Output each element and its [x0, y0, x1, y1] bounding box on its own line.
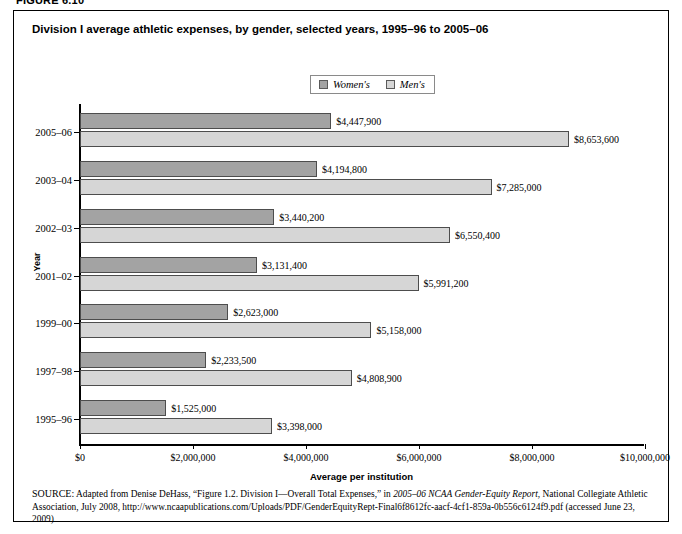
x-axis-tick — [306, 444, 307, 449]
x-axis-tick — [532, 444, 533, 449]
plot-area: Year Average per institution $0$2,000,00… — [14, 11, 670, 523]
bar-value-label: $4,447,900 — [336, 115, 381, 126]
x-axis-tick-label: $4,000,000 — [284, 452, 329, 463]
y-axis-tick — [74, 180, 79, 181]
x-axis-tick-label: $0 — [75, 452, 85, 463]
bar-womens-1995–96 — [80, 400, 166, 416]
figure-label: FIGURE 6.10 — [16, 0, 84, 6]
bar-womens-1997–98 — [80, 352, 206, 368]
bar-mens-2001–02 — [80, 275, 419, 291]
y-axis-tick-label: 1995–96 — [16, 414, 72, 425]
x-axis-line — [79, 444, 644, 446]
x-axis-tick — [419, 444, 420, 449]
bar-value-label: $5,991,200 — [424, 277, 469, 288]
bar-womens-1999–00 — [80, 304, 228, 320]
y-axis-tick — [74, 371, 79, 372]
y-axis-tick-label: 1999–00 — [16, 318, 72, 329]
y-axis-tick-label: 2002–03 — [16, 223, 72, 234]
y-axis-tick-label: 2003–04 — [16, 175, 72, 186]
bar-mens-1999–00 — [80, 322, 371, 338]
source-note: SOURCE: Adapted from Denise DeHass, “Fig… — [32, 488, 654, 526]
bar-mens-1995–96 — [80, 418, 272, 434]
x-axis-tick — [645, 444, 646, 449]
bar-value-label: $7,285,000 — [497, 181, 542, 192]
y-axis-tick-label: 2005–06 — [16, 127, 72, 138]
bar-value-label: $4,808,900 — [357, 373, 402, 384]
bar-value-label: $4,194,800 — [322, 163, 367, 174]
figure-frame: Division I average athletic expenses, by… — [13, 10, 669, 522]
x-axis-title: Average per institution — [79, 471, 644, 482]
y-axis-tick-label: 2001–02 — [16, 271, 72, 282]
bar-womens-2005–06 — [80, 113, 331, 129]
bar-value-label: $3,398,000 — [277, 421, 322, 432]
y-axis-tick — [74, 323, 79, 324]
x-axis-tick-label: $10,000,000 — [620, 452, 670, 463]
source-italic-title: 2005–06 NCAA Gender-Equity Report — [393, 489, 538, 499]
bar-mens-2003–04 — [80, 179, 492, 195]
bar-value-label: $3,131,400 — [262, 259, 307, 270]
source-intro: Adapted from Denise DeHass, “Figure 1.2.… — [74, 489, 393, 499]
y-axis-tick — [74, 276, 79, 277]
x-axis-tick-label: $6,000,000 — [397, 452, 442, 463]
y-axis-tick — [74, 132, 79, 133]
x-axis-tick — [193, 444, 194, 449]
x-axis-tick-label: $2,000,000 — [171, 452, 216, 463]
bar-value-label: $8,653,600 — [574, 133, 619, 144]
bar-value-label: $2,623,000 — [233, 307, 278, 318]
y-axis-tick — [74, 419, 79, 420]
bar-value-label: $5,158,000 — [376, 325, 421, 336]
bar-value-label: $1,525,000 — [171, 403, 216, 414]
bar-mens-1997–98 — [80, 370, 352, 386]
y-axis-tick — [74, 228, 79, 229]
bar-mens-2002–03 — [80, 227, 450, 243]
bar-value-label: $2,233,500 — [211, 355, 256, 366]
source-prefix: SOURCE: — [32, 488, 74, 499]
bar-womens-2003–04 — [80, 161, 317, 177]
y-tick-layer: 2005–062003–042002–032001–021999–001997–… — [14, 11, 72, 523]
y-axis-tick-label: 1997–98 — [16, 366, 72, 377]
bar-womens-2002–03 — [80, 209, 274, 225]
x-axis-tick-label: $8,000,000 — [510, 452, 555, 463]
bar-value-label: $3,440,200 — [279, 211, 324, 222]
bar-value-label: $6,550,400 — [455, 229, 500, 240]
bar-mens-2005–06 — [80, 131, 569, 147]
bar-womens-2001–02 — [80, 257, 257, 273]
x-axis-tick — [80, 444, 81, 449]
